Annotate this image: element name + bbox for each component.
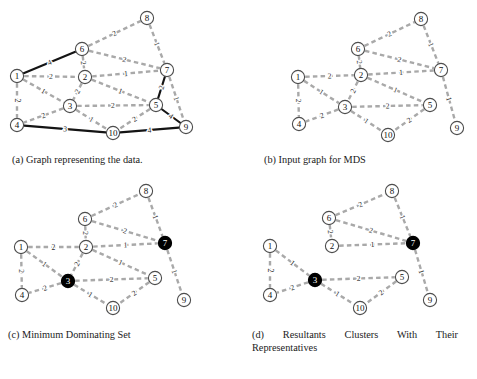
- graph-node-5[interactable]: 5: [395, 270, 408, 283]
- graph-node-5[interactable]: 5: [423, 98, 436, 111]
- graph-node-7[interactable]: 7: [434, 63, 447, 76]
- caption-panel-b: (b) Input graph for MDS: [264, 154, 464, 167]
- panel-d-canvas: 11222222112211222222111112345678910: [240, 180, 477, 325]
- graph-node-1[interactable]: 1: [291, 70, 304, 83]
- node-label: 3: [343, 102, 348, 112]
- graph-node-10[interactable]: 10: [106, 301, 119, 314]
- panel-d-graph: 11222222112211222222111112345678910: [240, 180, 477, 325]
- graph-node-9[interactable]: 9: [450, 121, 463, 134]
- node-label: 4: [15, 120, 20, 130]
- panel-c-svg: 2211222222221111221122221122111234567891…: [0, 180, 238, 325]
- node-layer: 12345678910: [14, 184, 190, 314]
- graph-node-3[interactable]: 3: [63, 99, 76, 112]
- graph-node-2[interactable]: 2: [79, 240, 92, 253]
- edge-weight-label: 2: [122, 226, 128, 236]
- graph-node-2[interactable]: 2: [325, 239, 338, 252]
- node-label: 9: [182, 295, 187, 305]
- node-label: 3: [66, 276, 71, 286]
- graph-node-10[interactable]: 10: [381, 128, 394, 141]
- node-label: 1: [296, 72, 301, 82]
- edge-weight-label: 1: [370, 240, 374, 249]
- node-label: 5: [428, 100, 433, 110]
- graph-node-9[interactable]: 9: [177, 293, 190, 306]
- edge-weight-label: 2: [109, 275, 113, 284]
- node-layer: 12345678910: [263, 184, 436, 314]
- node-label: 8: [390, 186, 395, 196]
- node-label: 9: [428, 295, 433, 305]
- node-label: 4: [297, 119, 302, 129]
- graph-node-3[interactable]: 3: [61, 274, 74, 287]
- graph-node-4[interactable]: 4: [292, 117, 305, 130]
- node-label: 10: [356, 303, 366, 313]
- edge-weight-label: 2: [397, 55, 403, 65]
- node-label: 7: [411, 238, 416, 248]
- edge-weight-label: 1: [399, 68, 404, 77]
- node-label: 9: [184, 122, 189, 132]
- edge-weight-label: 2: [79, 61, 88, 66]
- node-label: 4: [20, 290, 25, 300]
- graph-node-8[interactable]: 8: [140, 11, 153, 24]
- edge-weight-label: 2: [111, 101, 115, 110]
- graph-node-4[interactable]: 4: [263, 288, 276, 301]
- graph-node-1[interactable]: 1: [10, 69, 23, 82]
- graph-node-9[interactable]: 9: [179, 120, 192, 133]
- graph-node-8[interactable]: 8: [385, 184, 398, 197]
- panel-d-svg: 11222222112211222222111112345678910: [240, 180, 477, 325]
- graph-node-10[interactable]: 10: [353, 301, 366, 314]
- graph-node-4[interactable]: 4: [15, 288, 28, 301]
- edge-weight-label: 2: [326, 230, 335, 235]
- node-label: 7: [439, 65, 444, 75]
- graph-node-9[interactable]: 9: [423, 293, 436, 306]
- edge-weight-label: 1: [40, 86, 48, 96]
- node-label: 3: [313, 275, 318, 285]
- node-label: 6: [80, 44, 85, 54]
- edge-weight-label: 2: [72, 260, 82, 268]
- edge-weight-label: 1: [317, 87, 325, 97]
- node-label: 1: [19, 242, 24, 252]
- edge-weight-label: 2: [81, 231, 90, 235]
- edge-weight-label: 3: [63, 124, 68, 133]
- edge-weight-label: 2: [130, 288, 138, 298]
- edge-weight-label: 2: [73, 88, 83, 96]
- node-label: 10: [384, 130, 394, 140]
- graph-node-2[interactable]: 2: [354, 68, 367, 81]
- node-label: 5: [154, 100, 159, 110]
- graph-node-7[interactable]: 7: [160, 63, 173, 76]
- node-label: 2: [83, 72, 88, 82]
- edge-weight-label: 2: [17, 269, 26, 273]
- node-label: 6: [327, 213, 332, 223]
- edge-weight-label: 1: [152, 41, 162, 48]
- node-label: 5: [400, 272, 405, 282]
- node-label: 7: [163, 238, 168, 248]
- graph-node-6[interactable]: 6: [322, 211, 335, 224]
- graph-node-5[interactable]: 5: [149, 98, 162, 111]
- node-label: 3: [68, 101, 73, 111]
- edge-weight-label: 1: [87, 115, 95, 125]
- graph-node-8[interactable]: 8: [414, 12, 427, 25]
- edge-weight-label: 2: [266, 269, 275, 273]
- graph-node-3[interactable]: 3: [308, 273, 321, 286]
- graph-node-5[interactable]: 5: [148, 271, 161, 284]
- edge-weight-label: 2: [42, 283, 48, 293]
- edge-weight-label: 1: [362, 116, 370, 126]
- graph-node-3[interactable]: 3: [338, 100, 351, 113]
- edge-weight-label: 2: [356, 274, 360, 283]
- graph-node-1[interactable]: 1: [14, 240, 27, 253]
- graph-node-7[interactable]: 7: [406, 236, 419, 249]
- graph-node-6[interactable]: 6: [75, 42, 88, 55]
- graph-node-1[interactable]: 1: [263, 239, 276, 252]
- edge-weight-label: 2: [49, 72, 53, 81]
- graph-node-10[interactable]: 10: [106, 126, 119, 139]
- edge-weight-label: 2: [52, 243, 56, 252]
- graph-node-6[interactable]: 6: [78, 212, 91, 225]
- edge-weight-label: 2: [319, 111, 326, 121]
- graph-node-2[interactable]: 2: [78, 70, 91, 83]
- graph-node-4[interactable]: 4: [10, 118, 23, 131]
- node-label: 2: [330, 241, 335, 251]
- edge-weight-label: 1: [123, 240, 127, 249]
- node-label: 8: [145, 13, 150, 23]
- graph-node-7[interactable]: 7: [158, 236, 171, 249]
- edge-weight-label: 2: [130, 114, 138, 124]
- graph-node-6[interactable]: 6: [351, 42, 364, 55]
- graph-node-8[interactable]: 8: [139, 184, 152, 197]
